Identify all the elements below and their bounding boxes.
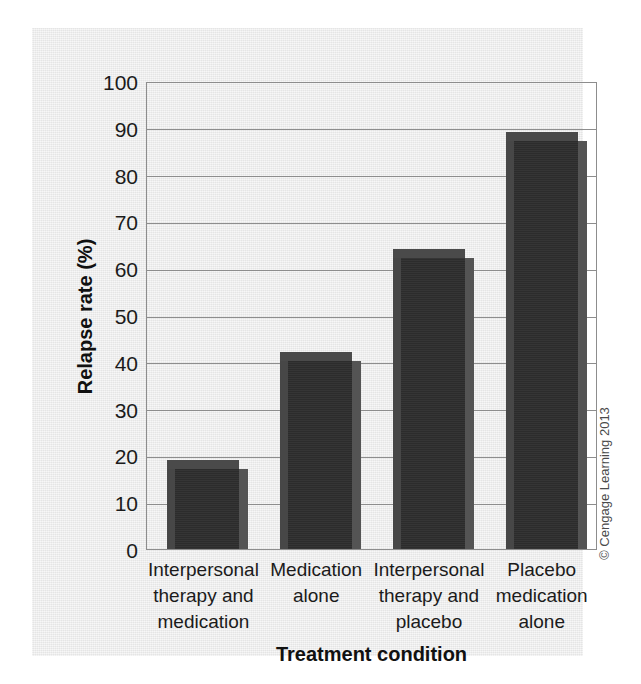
y-axis-tick-label: 90	[115, 118, 138, 142]
bar-side-face	[465, 258, 474, 549]
plot-inner: 0102030405060708090100	[147, 83, 596, 549]
bar-front-face	[280, 352, 352, 549]
plot-area: 0102030405060708090100	[146, 82, 597, 550]
bar-side-face	[352, 361, 361, 549]
bar	[280, 352, 352, 549]
x-axis-category-label-line: medication	[488, 583, 595, 609]
bar-top-face	[393, 249, 465, 258]
y-axis-title: Relapse rate (%)	[72, 82, 100, 550]
x-axis-category-labels: Interpersonaltherapy andmedicationMedica…	[146, 557, 597, 635]
bar-left-shade	[506, 141, 514, 549]
bar	[506, 132, 578, 549]
y-axis-tick-label: 80	[115, 165, 138, 189]
y-axis-tick-label: 60	[115, 258, 138, 282]
bar-left-shade	[280, 361, 288, 549]
y-axis-tick-label: 30	[115, 399, 138, 423]
x-axis-category-label-line: placebo	[374, 609, 485, 635]
gridline	[147, 129, 596, 130]
y-axis-tick-label: 20	[115, 445, 138, 469]
bar-top-face	[167, 460, 239, 469]
bar-side-face	[578, 141, 587, 549]
bar-left-shade	[167, 469, 175, 549]
y-axis-tick-label: 50	[115, 305, 138, 329]
bar-front-face	[167, 460, 239, 549]
x-axis-category-label: Placebomedicationalone	[486, 557, 597, 635]
figure-panel: Relapse rate (%) 0102030405060708090100 …	[32, 28, 583, 656]
bar-front-face	[393, 249, 465, 549]
y-axis-tick-label: 70	[115, 211, 138, 235]
gridline	[147, 551, 596, 552]
y-axis-tick-label: 100	[103, 71, 138, 95]
x-axis-category-label-line: Interpersonal	[148, 557, 259, 583]
bar-left-shade	[393, 258, 401, 549]
x-axis-category-label: Medicationalone	[261, 557, 372, 635]
bar	[167, 460, 239, 549]
copyright-credit-text: © Cengage Learning 2013	[597, 407, 612, 560]
x-axis-category-label-line: therapy and	[374, 583, 485, 609]
bar-front-face	[506, 132, 578, 549]
copyright-credit: © Cengage Learning 2013	[592, 476, 616, 666]
y-axis-tick-label: 10	[115, 492, 138, 516]
x-axis-category-label: Interpersonaltherapy andmedication	[146, 557, 261, 635]
gridline	[147, 83, 596, 84]
bar-top-face	[280, 352, 352, 361]
bar-side-face	[239, 469, 248, 549]
bar-top-face	[506, 132, 578, 141]
x-axis-category-label-line: Medication	[263, 557, 370, 583]
x-axis-category-label-line: alone	[488, 609, 595, 635]
x-axis-title: Treatment condition	[146, 643, 597, 666]
x-axis-category-label-line: alone	[263, 583, 370, 609]
x-axis-category-label: Interpersonaltherapy andplacebo	[372, 557, 487, 635]
x-axis-category-label-line: therapy and	[148, 583, 259, 609]
y-axis-tick-label: 0	[126, 539, 138, 563]
bar	[393, 249, 465, 549]
x-axis-category-label-line: medication	[148, 609, 259, 635]
x-axis-category-label-line: Placebo	[488, 557, 595, 583]
y-axis-title-text: Relapse rate (%)	[75, 238, 98, 394]
x-axis-category-label-line: Interpersonal	[374, 557, 485, 583]
y-axis-tick-label: 40	[115, 352, 138, 376]
